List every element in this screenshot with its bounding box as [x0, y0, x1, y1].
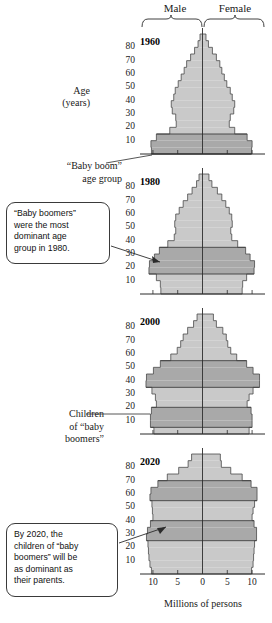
y-tick-label: 40: [119, 235, 135, 245]
annotation-children-line3: boomers”: [18, 433, 104, 446]
y-tick-label: 80: [119, 41, 135, 51]
y-tick-label: 10: [119, 555, 135, 565]
y-tick-label: 50: [119, 501, 135, 511]
y-tick-label: 60: [119, 348, 135, 358]
callout-2020-line4: as dominant as: [14, 564, 111, 576]
callout-1980-line2: were the most: [14, 220, 103, 232]
callout-2020-line5: their parents.: [14, 575, 111, 587]
y-tick-label: 10: [119, 415, 135, 425]
annotation-baby-boom-line2: age group: [18, 173, 122, 186]
callout-children-2020: By 2020, the children of “baby boomers” …: [6, 523, 118, 597]
annotation-baby-boom-group: “Baby boom” age group: [18, 160, 122, 185]
y-tick-label: 60: [119, 488, 135, 498]
callout-2020-line3: boomers” will be: [14, 552, 111, 564]
callout-1980-line1: “Baby boomers”: [14, 208, 103, 220]
x-tick-label: 10: [145, 577, 161, 587]
annotation-children-of-boomers: Children of “baby boomers”: [18, 408, 104, 446]
y-tick-label: 20: [119, 121, 135, 131]
y-tick-label: 60: [119, 68, 135, 78]
y-tick-label: 50: [119, 81, 135, 91]
y-tick-label: 70: [119, 335, 135, 345]
y-tick-label: 40: [119, 95, 135, 105]
y-tick-label: 70: [119, 195, 135, 205]
callout-2020-line1: By 2020, the: [14, 529, 111, 541]
y-tick-label: 70: [119, 475, 135, 485]
y-tick-label: 20: [119, 541, 135, 551]
y-tick-label: 40: [119, 375, 135, 385]
y-tick-label: 30: [119, 108, 135, 118]
x-tick-label: 5: [219, 577, 235, 587]
y-tick-label: 80: [119, 181, 135, 191]
y-tick-label: 40: [119, 515, 135, 525]
callout-1980-line3: dominant age: [14, 231, 103, 243]
x-tick-label: 10: [244, 577, 260, 587]
annotation-children-line1: Children: [18, 408, 104, 421]
callout-baby-boomers-1980: “Baby boomers” were the most dominant ag…: [6, 202, 110, 264]
y-tick-label: 80: [119, 461, 135, 471]
y-tick-label: 50: [119, 221, 135, 231]
y-tick-label: 30: [119, 248, 135, 258]
x-tick-label: 5: [170, 577, 186, 587]
callout-1980-line4: group in 1980.: [14, 243, 103, 255]
male-label: Male: [146, 2, 204, 14]
x-tick-label: 0: [195, 577, 211, 587]
y-tick-label: 70: [119, 55, 135, 65]
y-tick-label: 60: [119, 208, 135, 218]
y-tick-label: 80: [119, 321, 135, 331]
x-axis-title: Millions of persons: [143, 598, 263, 609]
female-label: Female: [204, 2, 266, 14]
callout-2020-line2: children of “baby: [14, 541, 111, 553]
population-pyramid-1960: [0, 24, 272, 166]
y-tick-label: 50: [119, 361, 135, 371]
annotation-baby-boom-line1: “Baby boom”: [18, 160, 122, 173]
y-tick-label: 20: [119, 401, 135, 411]
figure-root: Male Female Age (years) 1960 1980 2000 2…: [0, 0, 272, 623]
y-tick-label: 10: [119, 135, 135, 145]
y-tick-label: 10: [119, 275, 135, 285]
annotation-children-line2: of “baby: [18, 421, 104, 434]
y-tick-label: 30: [119, 388, 135, 398]
y-tick-label: 20: [119, 261, 135, 271]
y-tick-label: 30: [119, 528, 135, 538]
